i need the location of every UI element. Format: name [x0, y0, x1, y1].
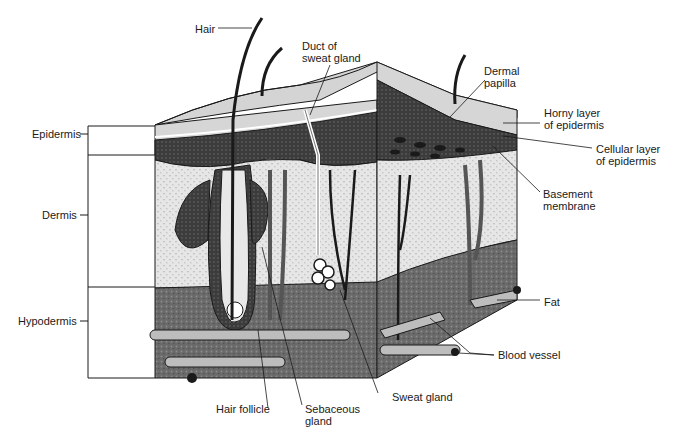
- label-hair-follicle: Hair follicle: [216, 403, 270, 415]
- label-blood-vessel: Blood vessel: [498, 349, 560, 361]
- label-dermis: Dermis: [42, 209, 77, 221]
- label-epidermis: Epidermis: [32, 128, 81, 140]
- label-sweat-gland: Sweat gland: [392, 391, 453, 403]
- label-horny-layer: Horny layer of epidermis: [544, 107, 604, 131]
- label-dermal-papilla: Dermal papilla: [484, 65, 519, 89]
- label-duct-of-sweat-gland: Duct of sweat gland: [302, 40, 361, 64]
- skin-block-illustration: [0, 0, 673, 440]
- label-sebaceous-gland: Sebaceous gland: [305, 403, 360, 427]
- label-basement-membrane: Basement membrane: [543, 188, 596, 212]
- layer-brackets: [80, 126, 155, 378]
- label-fat: Fat: [544, 296, 560, 308]
- label-hypodermis: Hypodermis: [18, 315, 77, 327]
- label-hair: Hair: [195, 23, 215, 35]
- skin-diagram: Epidermis Dermis Hypodermis Hair Duct of…: [0, 0, 673, 440]
- label-cellular-layer: Cellular layer of epidermis: [596, 143, 660, 167]
